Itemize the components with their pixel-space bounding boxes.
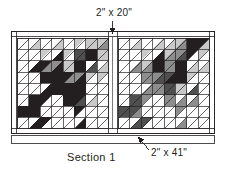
dimension-label-bottom: 2" x 41" [151,148,187,158]
left-quilt-block [18,38,109,129]
section-caption: Section 1 [67,152,116,163]
dimension-label-top: 2" x 20" [96,8,132,18]
quilt-diagram-stage: .o{stroke:#231f20;stroke-width:0.8;fill:… [0,0,226,172]
right-quilt-block [119,38,210,129]
